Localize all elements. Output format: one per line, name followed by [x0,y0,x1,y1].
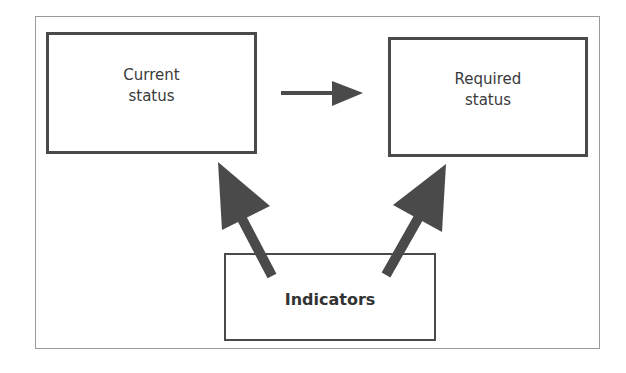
required-status-label: Required status [391,69,585,111]
current-status-label: Current status [49,65,254,107]
required-status-line2: status [391,90,585,111]
current-status-line1: Current [49,65,254,86]
current-status-line2: status [49,86,254,107]
indicators-label: Indicators [226,289,434,310]
current-status-box: Current status [46,32,257,154]
indicators-box: Indicators [224,253,436,341]
required-status-box: Required status [388,37,588,157]
required-status-line1: Required [391,69,585,90]
